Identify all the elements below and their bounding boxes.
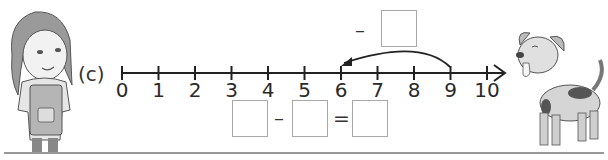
tick-label: 9 [436,78,466,102]
jump-minus-sign: – [355,18,365,42]
tick-label: 3 [217,78,247,102]
equation-equals-sign: = [333,106,350,130]
tick-label: 4 [253,78,283,102]
ground-line [4,152,604,154]
tick-label: 6 [326,78,356,102]
dog-illustration [508,25,608,150]
tick-label: 2 [180,78,210,102]
tick-label: 7 [363,78,393,102]
tick-label: 1 [144,78,174,102]
tick-label: 10 [472,78,502,102]
jump-arrow [344,51,450,67]
jump-answer-box[interactable] [381,10,417,47]
tick-label: 0 [107,78,137,102]
equation-second-box[interactable] [292,100,328,137]
equation-first-box[interactable] [232,100,268,137]
tick-label: 5 [290,78,320,102]
equation-result-box[interactable] [352,100,388,137]
equation-minus-sign: – [274,106,284,130]
tick-label: 8 [399,78,429,102]
